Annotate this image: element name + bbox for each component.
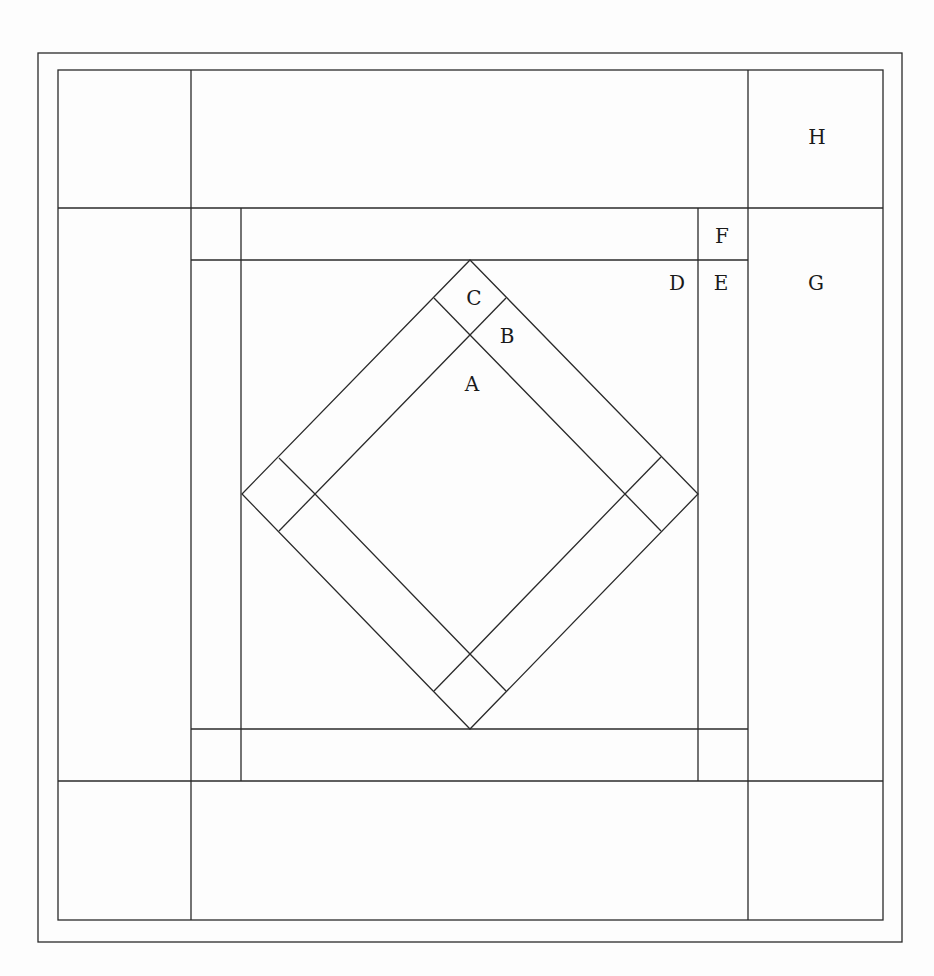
label-A: A [464, 372, 480, 396]
outer-diamond [242, 260, 698, 729]
quilt-block-diagram: A B C D E F G H [0, 0, 934, 976]
label-E: E [714, 271, 729, 295]
label-F: F [715, 224, 729, 248]
inner-border [58, 70, 883, 920]
label-C: C [466, 286, 481, 310]
outer-ring-lines [58, 70, 883, 920]
label-H: H [808, 125, 825, 149]
corner-square-lines [279, 298, 661, 691]
outer-border [38, 53, 902, 942]
label-B: B [500, 324, 515, 348]
label-D: D [669, 271, 685, 295]
label-G: G [808, 271, 824, 295]
